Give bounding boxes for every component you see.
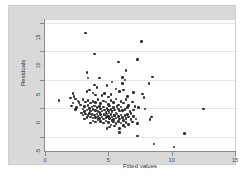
data-point — [126, 95, 129, 98]
data-point — [97, 98, 100, 101]
gridline-y — [45, 137, 235, 138]
data-point — [153, 143, 156, 146]
data-point — [58, 99, 61, 102]
gridline-y — [45, 23, 235, 24]
data-point — [126, 106, 129, 109]
data-point — [173, 146, 176, 149]
data-point — [86, 116, 89, 119]
data-point — [101, 94, 104, 97]
x-axis-label: Fitted values — [45, 163, 235, 169]
data-point — [131, 101, 134, 104]
data-point — [143, 96, 146, 99]
data-point — [96, 86, 99, 89]
data-point — [118, 90, 121, 93]
x-tick-mark — [45, 152, 46, 156]
data-point — [115, 98, 118, 101]
data-point — [106, 127, 109, 130]
data-point — [126, 113, 129, 116]
data-point — [113, 109, 116, 112]
data-point — [136, 122, 139, 125]
data-point — [125, 69, 128, 72]
x-tick-mark — [108, 152, 109, 156]
data-point — [132, 91, 135, 94]
data-point — [108, 105, 111, 108]
data-point — [112, 101, 115, 104]
data-point — [102, 122, 105, 125]
data-point — [124, 79, 127, 82]
data-point — [69, 97, 72, 100]
data-point — [202, 108, 205, 111]
data-point — [89, 122, 92, 125]
data-point — [94, 121, 97, 124]
data-point — [137, 106, 140, 109]
data-point — [134, 105, 137, 108]
data-point — [107, 96, 110, 99]
data-point — [108, 126, 111, 129]
data-point — [125, 98, 128, 101]
x-tick-mark — [235, 152, 236, 156]
data-point — [141, 93, 144, 96]
y-tick-label: 0 — [35, 108, 41, 137]
data-point — [148, 82, 151, 85]
y-axis-label: Residuals — [20, 60, 26, 86]
data-point — [183, 132, 186, 135]
data-point — [140, 40, 143, 43]
x-tick-mark — [172, 152, 173, 156]
data-point — [74, 108, 77, 111]
data-point — [121, 76, 124, 79]
data-point — [82, 114, 85, 117]
data-point — [88, 89, 91, 92]
data-point — [83, 105, 86, 108]
data-point — [124, 126, 127, 129]
data-point — [79, 104, 82, 107]
data-point — [103, 92, 106, 95]
data-point — [121, 82, 124, 85]
data-point — [106, 84, 109, 87]
data-point — [94, 94, 97, 97]
data-point — [117, 61, 120, 64]
data-point — [103, 113, 106, 116]
gridline-y — [45, 51, 235, 52]
data-point — [106, 115, 109, 118]
data-point — [122, 102, 125, 105]
data-point — [94, 101, 97, 104]
data-point — [144, 108, 147, 111]
data-point — [132, 109, 135, 112]
data-point — [113, 125, 116, 128]
gridline-y — [45, 80, 235, 81]
data-point — [70, 105, 73, 108]
data-point — [118, 127, 121, 130]
data-point — [135, 118, 138, 121]
data-point — [93, 53, 96, 56]
data-point — [84, 32, 87, 35]
data-point — [118, 131, 121, 134]
data-point — [122, 89, 125, 92]
data-point — [110, 93, 113, 96]
data-point — [83, 110, 86, 113]
y-tick-label: 10 — [35, 51, 41, 80]
data-point — [111, 81, 114, 84]
y-tick-label: 15 — [35, 23, 41, 52]
y-tick-label: 5 — [35, 80, 41, 109]
data-point — [115, 88, 118, 91]
graph-region: -5051015 051015 Residuals Fitted values — [8, 5, 236, 165]
chart-screenshot: -5051015 051015 Residuals Fitted values — [0, 0, 244, 188]
data-point — [151, 76, 154, 79]
data-point — [127, 123, 130, 126]
data-point — [86, 71, 89, 74]
y-axis-line — [44, 19, 45, 152]
data-point — [131, 121, 134, 124]
x-axis-line — [44, 151, 236, 152]
data-point — [136, 58, 139, 61]
data-point — [149, 118, 152, 121]
plot-area — [45, 20, 235, 151]
